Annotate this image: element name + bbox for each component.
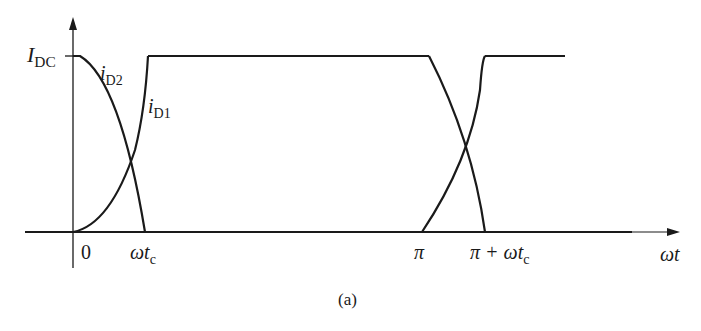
pi-tick-label: π: [414, 241, 424, 264]
pi-plus-wtc-tick-label: π + ωtc: [470, 241, 529, 268]
y-axis-arrow-icon: [69, 17, 77, 30]
wt-axis-label: ωt: [660, 243, 680, 266]
wtc-tick-label: ωtc: [130, 241, 156, 268]
id2-curve-rising: [422, 56, 485, 232]
waveform-diagram: [0, 0, 701, 331]
figure-caption: (a): [338, 290, 357, 310]
idc-label: IDC: [27, 42, 56, 71]
x-axis-arrow-icon: [667, 228, 680, 236]
id2-label: iD2: [100, 62, 123, 89]
zero-tick-label: 0: [81, 241, 91, 264]
id1-label: iD1: [148, 95, 171, 122]
